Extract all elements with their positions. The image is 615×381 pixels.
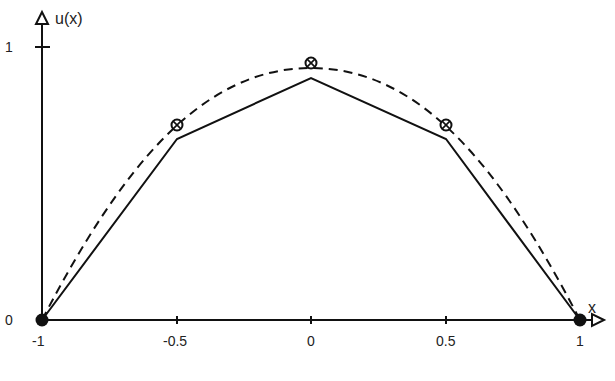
y-axis-label: u(x) — [55, 10, 83, 27]
x-tick-label-0: 0 — [307, 333, 315, 349]
x-tick-label-0.5: 0.5 — [436, 333, 456, 349]
y-tick-label-1: 1 — [5, 39, 13, 55]
y-tick-label-0: 0 — [5, 312, 13, 328]
otimes-marker-icon — [172, 120, 183, 131]
x-tick-label--0.5: -0.5 — [163, 333, 187, 349]
x-tick-label-1: 1 — [576, 333, 584, 349]
boundary-node-right-icon — [574, 314, 587, 327]
exact-solution-curve — [42, 68, 580, 320]
x-axis-label: x — [588, 299, 596, 316]
piecewise-linear-approximation — [42, 78, 580, 320]
boundary-node-left-icon — [36, 314, 49, 327]
x-tick-label--1: -1 — [32, 333, 45, 349]
otimes-marker-icon — [441, 120, 452, 131]
chart-canvas: u(x) x 1 0 -1 -0.5 0 0.5 1 — [0, 0, 615, 381]
y-axis-arrow-icon — [36, 12, 48, 24]
otimes-marker-icon — [306, 58, 317, 69]
